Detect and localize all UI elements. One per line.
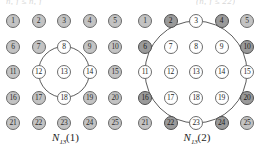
node-label-9: 9	[88, 43, 91, 51]
node-15: 15	[108, 65, 122, 79]
node-21: 21	[6, 116, 20, 130]
node-label-13: 13	[193, 68, 200, 76]
node-17: 17	[32, 91, 46, 105]
node-13: 13	[57, 65, 71, 79]
node-label-18: 18	[193, 94, 200, 102]
node-label-11: 11	[10, 68, 17, 76]
node-label-14: 14	[218, 68, 225, 76]
node-23: 23	[189, 116, 203, 130]
node-label-6: 6	[11, 43, 14, 51]
node-label-15: 15	[244, 68, 251, 76]
node-label-7: 7	[169, 43, 172, 51]
diagram-panel-left: 1234567891011121314151617181920212223242…	[0, 0, 131, 158]
node-19: 19	[83, 91, 97, 105]
node-12: 12	[164, 65, 178, 79]
node-16: 16	[138, 91, 152, 105]
node-label-6: 6	[143, 43, 146, 51]
node-20: 20	[108, 91, 122, 105]
node-6: 6	[138, 40, 152, 54]
node-2: 2	[164, 14, 178, 28]
caption-right-argument: (2)	[198, 131, 211, 143]
node-23: 23	[57, 116, 71, 130]
node-10: 10	[108, 40, 122, 54]
node-19: 19	[215, 91, 229, 105]
node-label-17: 17	[35, 94, 42, 102]
node-label-17: 17	[167, 94, 174, 102]
node-20: 20	[240, 91, 254, 105]
node-label-10: 10	[244, 43, 251, 51]
node-17: 17	[164, 91, 178, 105]
node-label-10: 10	[112, 43, 119, 51]
node-2: 2	[32, 14, 46, 28]
node-label-5: 5	[245, 17, 248, 25]
node-5: 5	[108, 14, 122, 28]
node-6: 6	[6, 40, 20, 54]
node-grid-right: 1234567891011121314151617181920212223242…	[131, 0, 263, 130]
node-label-19: 19	[86, 94, 93, 102]
node-label-4: 4	[88, 17, 91, 25]
node-7: 7	[32, 40, 46, 54]
node-label-8: 8	[62, 43, 65, 51]
node-21: 21	[138, 116, 152, 130]
node-label-7: 7	[37, 43, 40, 51]
node-label-20: 20	[112, 94, 119, 102]
node-label-1: 1	[11, 17, 14, 25]
node-label-24: 24	[218, 119, 225, 127]
node-label-14: 14	[86, 68, 93, 76]
node-15: 15	[240, 65, 254, 79]
node-label-8: 8	[194, 43, 197, 51]
figure-root: n, j ≤ n, j (n, j ≤ 22) 1234567891011121…	[0, 0, 263, 158]
node-1: 1	[6, 14, 20, 28]
caption-left-argument: (1)	[66, 131, 79, 143]
node-label-5: 5	[113, 17, 116, 25]
node-label-16: 16	[142, 94, 149, 102]
node-5: 5	[240, 14, 254, 28]
node-label-21: 21	[10, 119, 17, 127]
node-label-22: 22	[167, 119, 174, 127]
node-label-13: 13	[61, 68, 68, 76]
node-8: 8	[57, 40, 71, 54]
node-16: 16	[6, 91, 20, 105]
caption-right: N13(2)	[131, 131, 263, 146]
node-9: 9	[215, 40, 229, 54]
caption-right-subscript: 13	[191, 138, 198, 146]
node-label-23: 23	[193, 119, 200, 127]
caption-left: N13(1)	[0, 131, 131, 146]
node-3: 3	[189, 14, 203, 28]
node-label-24: 24	[86, 119, 93, 127]
node-label-15: 15	[112, 68, 119, 76]
node-14: 14	[83, 65, 97, 79]
node-13: 13	[189, 65, 203, 79]
node-7: 7	[164, 40, 178, 54]
node-label-2: 2	[169, 17, 172, 25]
node-grid-left: 1234567891011121314151617181920212223242…	[0, 0, 131, 130]
node-25: 25	[240, 116, 254, 130]
node-label-12: 12	[167, 68, 174, 76]
node-11: 11	[6, 65, 20, 79]
node-25: 25	[108, 116, 122, 130]
node-22: 22	[164, 116, 178, 130]
node-label-16: 16	[10, 94, 17, 102]
node-label-25: 25	[112, 119, 119, 127]
node-24: 24	[215, 116, 229, 130]
node-label-2: 2	[37, 17, 40, 25]
node-label-23: 23	[61, 119, 68, 127]
node-14: 14	[215, 65, 229, 79]
node-22: 22	[32, 116, 46, 130]
diagram-panel-right: 1234567891011121314151617181920212223242…	[131, 0, 263, 158]
node-18: 18	[57, 91, 71, 105]
node-9: 9	[83, 40, 97, 54]
node-label-12: 12	[35, 68, 42, 76]
node-label-21: 21	[142, 119, 149, 127]
node-label-3: 3	[62, 17, 65, 25]
node-12: 12	[32, 65, 46, 79]
node-label-4: 4	[220, 17, 223, 25]
caption-right-name: N	[184, 131, 191, 143]
node-10: 10	[240, 40, 254, 54]
node-18: 18	[189, 91, 203, 105]
node-4: 4	[83, 14, 97, 28]
node-3: 3	[57, 14, 71, 28]
node-label-22: 22	[35, 119, 42, 127]
node-label-11: 11	[142, 68, 149, 76]
node-label-25: 25	[244, 119, 251, 127]
